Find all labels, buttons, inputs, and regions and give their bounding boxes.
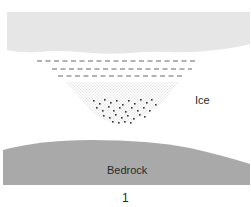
ice-label: Ice bbox=[195, 94, 210, 106]
dashed-layering-lines bbox=[37, 61, 198, 76]
figure-number: 1 bbox=[122, 191, 129, 205]
bedrock-label: Bedrock bbox=[107, 164, 147, 176]
bedrock bbox=[3, 140, 250, 185]
upper-ice-slab bbox=[7, 12, 250, 54]
